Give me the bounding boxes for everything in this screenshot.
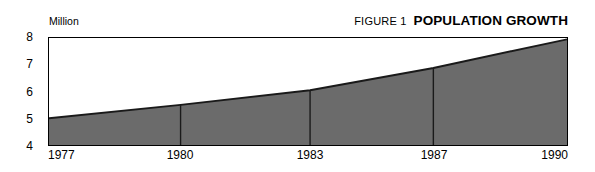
x-tick-1987: 1987 xyxy=(421,149,448,161)
y-tick-8: 8 xyxy=(26,31,33,43)
y-tick-5: 5 xyxy=(26,113,33,125)
figure-number-label: FIGURE 1 xyxy=(354,15,406,27)
y-axis-tick-labels: 8 7 6 5 4 xyxy=(0,37,42,146)
x-tick-1977: 1977 xyxy=(48,149,75,161)
page-title: POPULATION GROWTH xyxy=(414,13,568,28)
x-axis-tick-labels: 1977 1980 1983 1987 1990 xyxy=(0,149,595,169)
x-tick-1980: 1980 xyxy=(167,149,194,161)
figure-population-growth: FIGURE 1 POPULATION GROWTH Million 8 7 6… xyxy=(0,0,595,172)
y-tick-6: 6 xyxy=(26,86,33,98)
area-chart-svg xyxy=(49,38,567,145)
x-tick-1983: 1983 xyxy=(297,149,324,161)
plot-area xyxy=(48,37,568,146)
y-axis-unit-label: Million xyxy=(49,15,79,27)
y-tick-7: 7 xyxy=(26,58,33,70)
x-tick-1990: 1990 xyxy=(541,149,568,161)
figure-title-block: FIGURE 1 POPULATION GROWTH xyxy=(354,13,568,28)
